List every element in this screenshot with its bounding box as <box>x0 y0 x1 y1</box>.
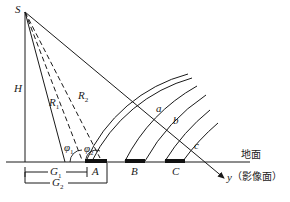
label-G2: G2 <box>52 177 63 191</box>
label-A: A <box>92 166 99 177</box>
r1-line <box>25 12 65 162</box>
r1-text: R <box>49 96 56 108</box>
label-R1: R1 <box>49 97 59 111</box>
r2-text: R <box>78 89 85 101</box>
dashed-ray-near <box>25 12 82 160</box>
g2-sub: 2 <box>60 183 64 191</box>
label-a: a <box>156 103 162 114</box>
label-c: c <box>194 140 199 151</box>
dashed-ray-far <box>25 12 100 158</box>
target-C-bar <box>165 159 185 163</box>
label-b: b <box>173 115 179 126</box>
g2-text: G <box>52 176 60 188</box>
target-A-bar <box>85 159 107 163</box>
label-H: H <box>14 83 22 94</box>
phi1-sub: 1 <box>70 148 74 156</box>
image-plane-line <box>25 12 224 178</box>
range-arc-c-outer <box>165 110 210 161</box>
label-phi1: φ1 <box>64 142 74 156</box>
target-B-bar <box>125 159 145 163</box>
label-B: B <box>131 166 138 177</box>
range-arc-b-inner <box>145 95 206 161</box>
r2-sub: 2 <box>85 96 89 104</box>
label-S: S <box>15 4 21 15</box>
phi2-sub: 2 <box>90 149 94 157</box>
label-C: C <box>172 166 179 177</box>
range-arc-c-inner <box>183 123 218 161</box>
label-phi2: φ2 <box>84 143 94 157</box>
range-arc-b-outer <box>125 86 197 161</box>
label-ground: 地面 <box>241 150 261 160</box>
r1-sub: 1 <box>56 103 60 111</box>
label-image-plane: （影像面） <box>232 172 282 182</box>
label-R2: R2 <box>78 90 88 104</box>
